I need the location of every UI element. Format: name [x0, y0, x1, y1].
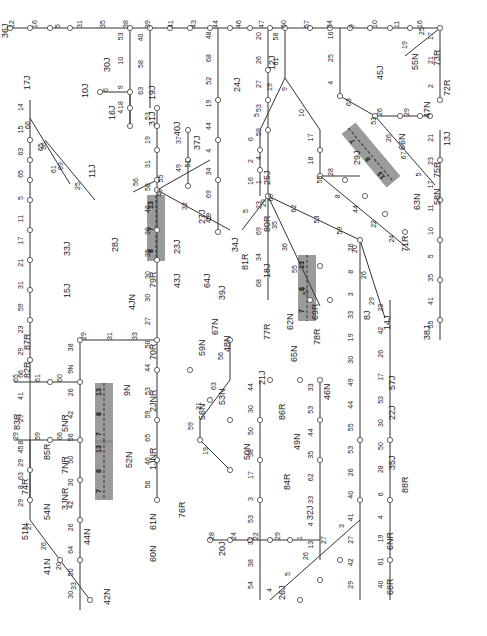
- segment-label: 30: [377, 419, 384, 427]
- segment-label: 39: [144, 20, 151, 28]
- segment-label: 8: [347, 270, 354, 274]
- segment-label: 44: [144, 364, 151, 372]
- node-label: 37J: [192, 135, 202, 150]
- node-circle: [47, 25, 52, 30]
- node-circle: [77, 437, 82, 442]
- segment-label: 26: [40, 542, 47, 550]
- node-label: 48N: [222, 335, 232, 352]
- segment-label: 44: [212, 20, 219, 28]
- node-circle: [317, 577, 322, 582]
- segment-label: 57: [302, 287, 309, 295]
- node-label: 86R: [277, 403, 287, 420]
- node-label: 75R: [432, 161, 442, 178]
- node-label: 6NR: [385, 531, 395, 550]
- node-label: 39J: [217, 285, 227, 300]
- node-label: 80R: [262, 215, 272, 232]
- node-label: 82R: [22, 361, 32, 378]
- segment-label: 25: [74, 182, 81, 190]
- node-circle: [337, 557, 342, 562]
- node-label: 30J: [102, 57, 112, 72]
- segment-label: 4: [117, 110, 124, 114]
- shaded-block-label: 13: [95, 388, 102, 396]
- node-circle: [215, 177, 220, 182]
- segment-label: 27: [347, 536, 354, 544]
- node-circle: [47, 379, 52, 384]
- segment-label: 31: [144, 160, 151, 168]
- node-label: 28J: [110, 237, 120, 252]
- segment-label: 26: [67, 388, 74, 396]
- node-label: 8J: [362, 310, 372, 320]
- segment-label: 55: [157, 175, 164, 183]
- segment-label: 20: [351, 245, 358, 253]
- segment-label: 53: [370, 117, 377, 125]
- segment-label: 4: [377, 515, 384, 519]
- node-label: 3JNR: [60, 487, 70, 510]
- node-label: 88R: [400, 476, 410, 493]
- node-circle: [382, 211, 387, 216]
- segment-label: 29: [80, 332, 87, 340]
- segment-label: 28: [327, 168, 334, 176]
- node-circle: [327, 297, 332, 302]
- segment-label: 29: [17, 499, 24, 507]
- node-circle: [317, 417, 322, 422]
- segment-label: 11: [17, 215, 24, 222]
- node-label: 58N: [432, 188, 442, 205]
- segment-label: 24: [230, 532, 237, 540]
- node-circle: [287, 537, 292, 542]
- segment-label: 23: [17, 325, 24, 333]
- segment-label: 60: [280, 20, 287, 28]
- segment-label: 21: [427, 134, 434, 142]
- node-circle: [437, 277, 442, 282]
- node-label: 55N: [410, 53, 420, 70]
- segment-label: 33: [70, 582, 77, 590]
- segment-label: 61: [34, 374, 41, 382]
- node-label: 65N: [289, 345, 299, 362]
- node-label: 15J: [62, 283, 72, 298]
- node-circle: [227, 467, 232, 472]
- node-circle: [215, 229, 220, 234]
- node-circle: [342, 177, 347, 182]
- node-circle: [387, 25, 392, 30]
- edge: [320, 176, 410, 250]
- node-label: 31J: [147, 111, 157, 126]
- shaded-block-label: 8: [95, 412, 102, 416]
- node-label: 85R: [42, 443, 52, 460]
- node-circle: [437, 317, 442, 322]
- segment-label: 18: [307, 157, 314, 165]
- segment-label: 54: [247, 581, 254, 589]
- node-label: 61N: [148, 513, 158, 530]
- segment-label: 13: [307, 541, 314, 549]
- segment-label: 26: [360, 271, 367, 279]
- segment-label: 41: [427, 297, 434, 305]
- segment-label: 33: [307, 496, 314, 504]
- segment-label: 27: [144, 317, 151, 325]
- segment-label: 59: [34, 432, 41, 440]
- node-label: 51N: [20, 523, 30, 540]
- node-label: 53N: [217, 388, 227, 405]
- segment-label: 59: [255, 128, 262, 136]
- segment-label: 19: [144, 136, 151, 144]
- segment-label: 62: [290, 205, 297, 213]
- segment-label: 63: [210, 382, 217, 390]
- segment-label: 29: [274, 532, 281, 540]
- segment-label: 26: [255, 56, 262, 64]
- segment-label: 16: [31, 20, 38, 28]
- segment-label: 45: [17, 445, 24, 453]
- segment-label: 20: [55, 562, 62, 570]
- diagram-canvas: 13871387137813877813 1216531353839414344…: [0, 0, 487, 636]
- segment-label: 51: [184, 160, 191, 168]
- segment-label: 6: [102, 88, 109, 92]
- node-label: 54N: [42, 503, 52, 520]
- node-circle: [227, 417, 232, 422]
- segment-label: 36: [144, 227, 151, 235]
- segment-label: 30: [347, 356, 354, 364]
- segment-label: 57: [303, 20, 310, 28]
- node-circle: [387, 557, 392, 562]
- segment-label: 55: [347, 423, 354, 431]
- segment-label: 34: [205, 167, 212, 175]
- node-circle: [185, 183, 190, 188]
- segment-label: 17: [247, 471, 254, 479]
- node-circle: [307, 297, 312, 302]
- node-label: 12J: [267, 55, 277, 70]
- segment-label: 4: [205, 149, 212, 153]
